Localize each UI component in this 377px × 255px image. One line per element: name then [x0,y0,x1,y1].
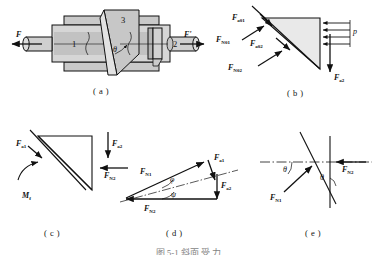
label-fn2-d: FN2 [143,204,156,214]
diagram-b: Fa01 FN01 Fa02 FN02 p Fa2 [214,4,374,86]
caption-e: ( e ) [305,228,321,238]
label-fa1-c: Fa1 [15,139,27,149]
label-angle-theta-right: θ [320,173,324,182]
label-fa2-d: Fa2 [220,181,232,191]
label-fn1-d: FN1 [139,167,152,177]
label-fn1-e: FN1 [269,193,282,203]
diagram-d-svg: FN1 Fa1 Fa2 FN2 φ ψ [118,144,246,214]
diagram-d: FN1 Fa1 Fa2 FN2 φ ψ [118,144,246,214]
label-fn2-e: FN2 [341,165,354,175]
label-fa1-d: Fa1 [213,153,225,163]
diagram-a-svg: F F' 1 2 3 θ [8,6,208,84]
label-fn02: FN02 [227,63,242,73]
label-pressure-p: p [352,27,357,36]
label-force-right: F' [183,30,192,39]
label-fn2-c: FN2 [103,171,116,181]
caption-c: ( c ) [44,228,60,238]
label-angle-theta-left: θ [283,165,287,174]
label-angle-psi: ψ [171,190,177,199]
part-number-1: 1 [72,39,76,49]
label-force-left: F [15,30,22,39]
figure-title-partial: 图 5-1 斜面 受 力 [0,246,377,255]
label-fa01: Fa01 [231,13,245,23]
diagram-e-svg: FN1 FN2 θ θ [258,134,376,214]
diagram-e: FN1 FN2 θ θ [258,134,376,214]
label-fn01: FN01 [215,35,230,45]
caption-a: ( a ) [93,86,109,96]
label-fa02: Fa02 [249,39,263,49]
diagram-b-svg: Fa01 FN01 Fa02 FN02 p Fa2 [214,4,374,86]
label-mf: Mf [21,191,31,201]
caption-d: ( d ) [166,228,183,238]
diagram-a: F F' 1 2 3 θ [8,6,208,84]
part-number-2: 2 [173,39,177,49]
caption-b: ( b ) [287,88,304,98]
label-angle-phi: φ [170,175,175,184]
part-number-3: 3 [121,15,125,25]
label-fa2-b: Fa2 [333,73,345,83]
label-angle-theta: θ [113,45,117,54]
